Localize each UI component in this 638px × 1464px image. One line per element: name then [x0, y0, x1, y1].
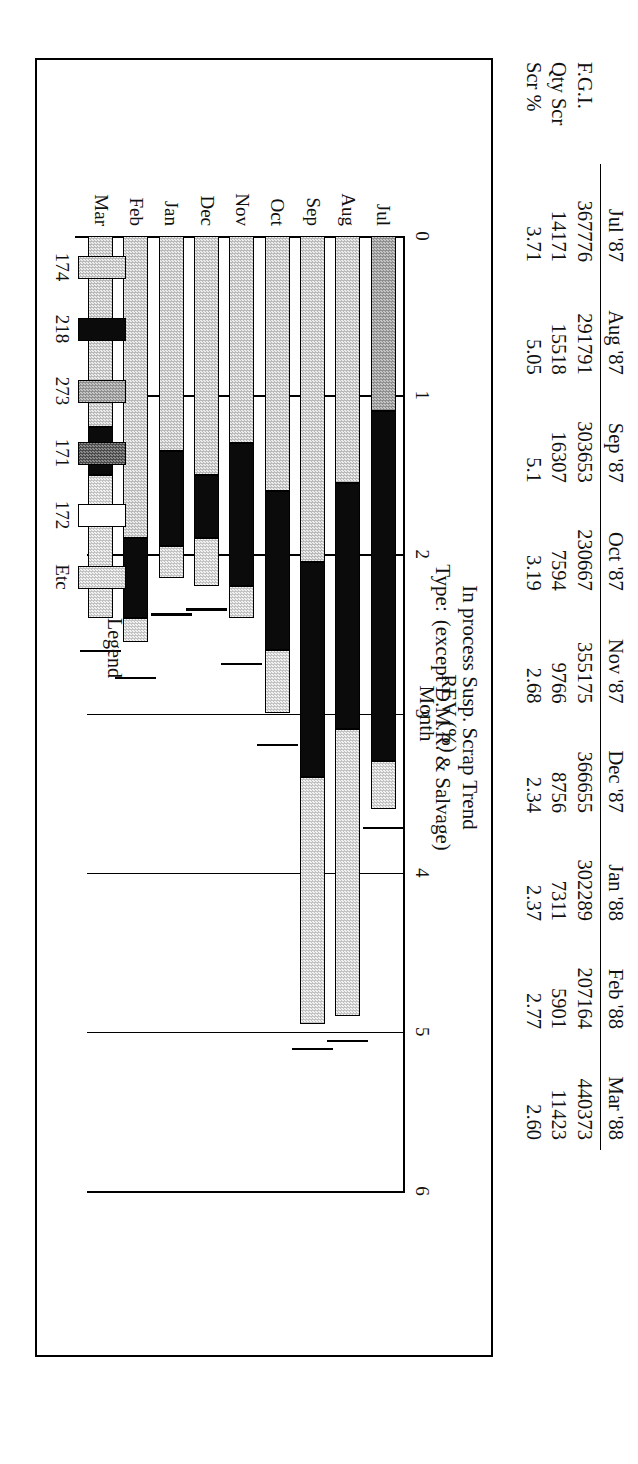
bar-row-feb: Feb: [124, 236, 149, 1191]
legend-item-Etc[interactable]: Etc: [51, 546, 126, 608]
bar-segment-174: [159, 236, 184, 451]
category-label-jan: Jan: [160, 201, 182, 226]
legend-title: Legend: [103, 618, 126, 678]
bar-segment-Etc: [194, 538, 219, 586]
page-stage: Jul '87 Aug '87 Sep '87 Oct '87 Nov '87 …: [0, 0, 638, 1464]
table-row-scrpct: Scr % 3.71 5.05 5.1 3.19 2.68 2.34 2.37 …: [520, 60, 545, 1150]
cell-fgi-2: 303653: [571, 385, 600, 493]
row-label-fgi: F.G.I.: [571, 60, 600, 164]
legend-item-218[interactable]: 218: [51, 298, 126, 360]
gridline-6: [87, 1191, 405, 1193]
cell-scrpct-0: 3.71: [520, 164, 545, 272]
legend-swatch-Etc: [78, 566, 126, 589]
cell-fgi-0: 367776: [571, 164, 600, 272]
category-label-dec: Dec: [196, 195, 218, 226]
trend-marker-sep: [292, 1048, 333, 1051]
bar-segment-273: [371, 236, 396, 411]
cell-fgi-3: 230667: [571, 493, 600, 601]
axis-label-rev: REV (%): [436, 236, 461, 1191]
bar-segment-174: [230, 236, 255, 443]
col-header-dec87: Dec '87: [600, 714, 628, 823]
legend-swatch-172: [78, 504, 126, 527]
col-header-jul87: Jul '87: [600, 164, 628, 272]
cell-scrpct-6: 2.37: [520, 823, 545, 931]
axis-label-month: Month: [414, 236, 439, 1191]
bar-row-aug: Aug: [336, 236, 361, 1191]
cell-fgi-6: 302289: [571, 823, 600, 931]
bar-row-jul: Jul: [371, 236, 396, 1191]
trend-marker-aug: [328, 1040, 369, 1043]
legend-label-174: 174: [51, 253, 73, 282]
category-label-aug: Aug: [337, 193, 359, 226]
bar-row-oct: Oct: [265, 236, 290, 1191]
legend-item-273[interactable]: 273: [51, 360, 126, 422]
cell-qtyscr-0: 14171: [546, 164, 571, 272]
cell-scrpct-7: 2.77: [520, 931, 545, 1039]
col-header-sep87: Sep '87: [600, 385, 628, 493]
plot-area: 0123456 JulAugSepOctNovDecJanFebMar: [87, 236, 405, 1191]
chart-frame: In process Susp. Scrap Trend Type: (exce…: [35, 58, 493, 1357]
legend-label-172: 172: [51, 501, 73, 530]
table-row-fgi: F.G.I. 367776 291791 303653 230667 35517…: [571, 60, 600, 1150]
bar-segment-174: [265, 236, 290, 491]
row-label-scrpct: Scr %: [520, 60, 545, 164]
bar-segment-Etc: [230, 586, 255, 618]
cell-fgi-4: 355175: [571, 601, 600, 714]
bar-segment-218: [265, 491, 290, 650]
data-table-block: Jul '87 Aug '87 Sep '87 Oct '87 Nov '87 …: [516, 60, 628, 1150]
cell-scrpct-5: 2.34: [520, 714, 545, 823]
col-header-mar88: Mar '88: [600, 1039, 628, 1150]
cell-qtyscr-7: 5901: [546, 931, 571, 1039]
row-label-qtyscr: Qty Scr: [546, 60, 571, 164]
cell-qtyscr-6: 7311: [546, 823, 571, 931]
trend-marker-jul: [363, 827, 404, 830]
legend-item-171[interactable]: 171: [51, 422, 126, 484]
bar-segment-174: [300, 236, 325, 562]
table-corner-cell: [600, 60, 628, 164]
legend-item-172[interactable]: 172: [51, 484, 126, 546]
cell-scrpct-4: 2.68: [520, 601, 545, 714]
cell-scrpct-8: 2.60: [520, 1039, 545, 1150]
bar-segment-174: [336, 236, 361, 483]
legend-label-273: 273: [51, 377, 73, 406]
legend-swatch-218: [78, 318, 126, 341]
bar-segment-Etc: [371, 761, 396, 809]
bar-segment-Etc: [124, 618, 149, 642]
trend-marker-jan: [151, 613, 192, 616]
bar-segment-174: [124, 236, 149, 538]
cell-fgi-1: 291791: [571, 272, 600, 385]
legend-item-174[interactable]: 174: [51, 236, 126, 298]
bar-row-dec: Dec: [194, 236, 219, 1191]
legend-swatch-273: [78, 380, 126, 403]
bar-segment-218: [336, 483, 361, 730]
cell-scrpct-2: 5.1: [520, 385, 545, 493]
cell-qtyscr-2: 16307: [546, 385, 571, 493]
bar-segment-218: [124, 538, 149, 618]
bar-segment-Etc: [300, 777, 325, 1024]
bar-segment-218: [230, 443, 255, 586]
category-label-mar: Mar: [90, 194, 112, 226]
table-header-row: Jul '87 Aug '87 Sep '87 Oct '87 Nov '87 …: [600, 60, 628, 1150]
scrap-data-table: Jul '87 Aug '87 Sep '87 Oct '87 Nov '87 …: [520, 60, 628, 1150]
bar-segment-218: [371, 411, 396, 761]
bar-segment-218: [300, 562, 325, 777]
bar-row-nov: Nov: [230, 236, 255, 1191]
cell-qtyscr-8: 11423: [546, 1039, 571, 1150]
cell-fgi-5: 366655: [571, 714, 600, 823]
bar-row-sep: Sep: [300, 236, 325, 1191]
cell-scrpct-3: 3.19: [520, 493, 545, 601]
trend-marker-dec: [186, 608, 227, 611]
cell-qtyscr-3: 7594: [546, 493, 571, 601]
legend-label-171: 171: [51, 439, 73, 468]
table-row-qtyscr: Qty Scr 14171 15518 16307 7594 9766 8756…: [546, 60, 571, 1150]
col-header-oct87: Oct '87: [600, 493, 628, 601]
category-label-feb: Feb: [125, 198, 147, 227]
cell-qtyscr-4: 9766: [546, 601, 571, 714]
cell-scrpct-1: 5.05: [520, 272, 545, 385]
legend-swatch-171: [78, 442, 126, 465]
bar-segment-Etc: [265, 650, 290, 714]
legend-label-Etc: Etc: [51, 564, 73, 589]
bar-rows: JulAugSepOctNovDecJanFebMar: [87, 236, 405, 1191]
cell-fgi-8: 440373: [571, 1039, 600, 1150]
bar-segment-174: [194, 236, 219, 475]
